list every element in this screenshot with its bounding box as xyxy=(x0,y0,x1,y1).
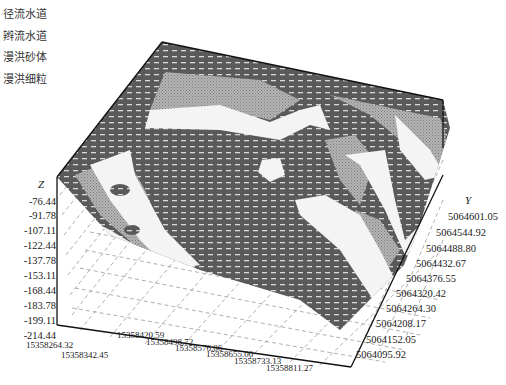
z-tick: -199.11 xyxy=(24,315,56,326)
y-tick: 5064376.55 xyxy=(406,273,456,284)
x-axis-ticks: 15358264.32 15358342.45 15358420.59 1535… xyxy=(26,330,313,373)
x-tick: 15358264.32 xyxy=(26,340,73,350)
x-tick: 15358811.27 xyxy=(266,363,313,373)
y-tick: 5064544.92 xyxy=(436,227,486,238)
y-tick: 5064320.42 xyxy=(396,288,446,299)
y-tick: 5064095.92 xyxy=(356,349,406,360)
z-axis-ticks: -76.44 -91.78 -107.11 -122.44 -137.78 -1… xyxy=(24,196,57,341)
z-tick: -168.44 xyxy=(24,285,57,296)
y-tick: 5064152.05 xyxy=(366,334,416,345)
y-tick: 5064488.80 xyxy=(426,243,476,254)
z-tick: -107.11 xyxy=(24,225,56,236)
x-tick: 15358342.45 xyxy=(61,350,109,360)
y-tick: 5064601.05 xyxy=(448,211,498,222)
y-tick: 5064264.30 xyxy=(386,303,436,314)
y-tick: 5064432.67 xyxy=(416,258,466,269)
z-tick: -137.78 xyxy=(24,255,56,266)
y-tick: 5064208.17 xyxy=(376,318,426,329)
y-axis-label: Y xyxy=(465,194,473,206)
z-tick: -153.11 xyxy=(24,270,56,281)
z-tick: -76.44 xyxy=(29,196,57,207)
z-tick: -122.44 xyxy=(24,240,57,251)
z-tick: -91.78 xyxy=(29,210,56,221)
z-axis-label: Z xyxy=(38,178,45,190)
z-tick: -183.78 xyxy=(24,300,56,311)
chart-3d-plot: Z -76.44 -91.78 -107.11 -122.44 -137.78 … xyxy=(0,0,506,385)
